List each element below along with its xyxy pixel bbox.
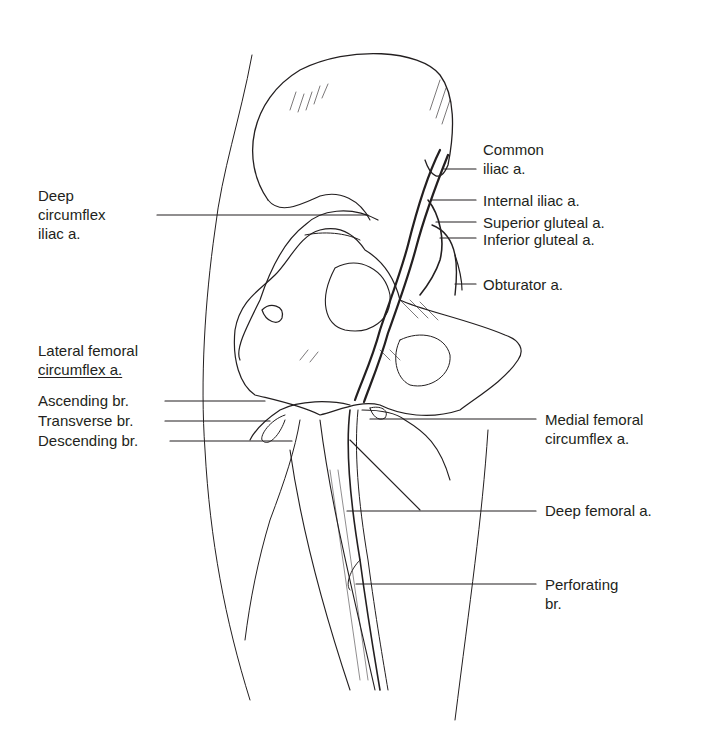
label-line: iliac a. [38, 224, 106, 243]
iliac-wing [253, 54, 453, 200]
label-line: circumflex [38, 205, 106, 224]
label-inferior-gluteal: Inferior gluteal a. [483, 230, 595, 249]
label-line: br. [545, 594, 618, 613]
obturator-foramen [396, 335, 450, 386]
label-line: Inferior gluteal a. [483, 230, 595, 249]
label-line: Deep femoral a. [545, 501, 652, 520]
label-deep-femoral: Deep femoral a. [545, 501, 652, 520]
common-iliac-artery [355, 150, 440, 400]
label-obturator: Obturator a. [483, 275, 563, 294]
label-lateral-femoral-circumflex: Lateral femoral circumflex a. [38, 341, 138, 379]
label-line: Internal iliac a. [483, 191, 580, 210]
label-line: circumflex a. [545, 429, 643, 448]
leader-lines [157, 169, 536, 584]
label-line: Descending br. [38, 431, 138, 450]
femoral-head [325, 263, 390, 331]
anatomy-figure: Deep circumflex iliac a. Lateral femoral… [0, 0, 711, 744]
label-common-iliac: Common iliac a. [483, 140, 544, 178]
label-line: iliac a. [483, 159, 544, 178]
label-medial-femoral-circumflex: Medial femoral circumflex a. [545, 410, 643, 448]
label-line: Lateral femoral [38, 341, 138, 360]
label-line: Obturator a. [483, 275, 563, 294]
deep-femoral-artery [350, 440, 420, 510]
label-line: Perforating [545, 575, 618, 594]
label-line: Common [483, 140, 544, 159]
medial-femoral-circumflex-artery [362, 410, 450, 480]
body-outline-left [203, 55, 252, 700]
label-ascending-branch: Ascending br. [38, 391, 129, 410]
femoral-artery [348, 410, 380, 690]
deep-circumflex-iliac-artery [239, 211, 378, 360]
label-line: Transverse br. [38, 411, 133, 430]
internal-iliac-artery [420, 200, 442, 295]
perforating-artery [348, 560, 360, 590]
label-descending-branch: Descending br. [38, 431, 138, 450]
label-deep-circumflex-iliac: Deep circumflex iliac a. [38, 186, 106, 243]
label-transverse-branch: Transverse br. [38, 411, 133, 430]
body-outline-right [455, 430, 488, 720]
label-line: Ascending br. [38, 391, 129, 410]
label-line: Deep [38, 186, 106, 205]
label-perforating-branch: Perforating br. [545, 575, 618, 613]
label-line: circumflex a. [38, 360, 138, 379]
femur-lateral [290, 450, 350, 690]
label-internal-iliac: Internal iliac a. [483, 191, 580, 210]
label-line: Medial femoral [545, 410, 643, 429]
